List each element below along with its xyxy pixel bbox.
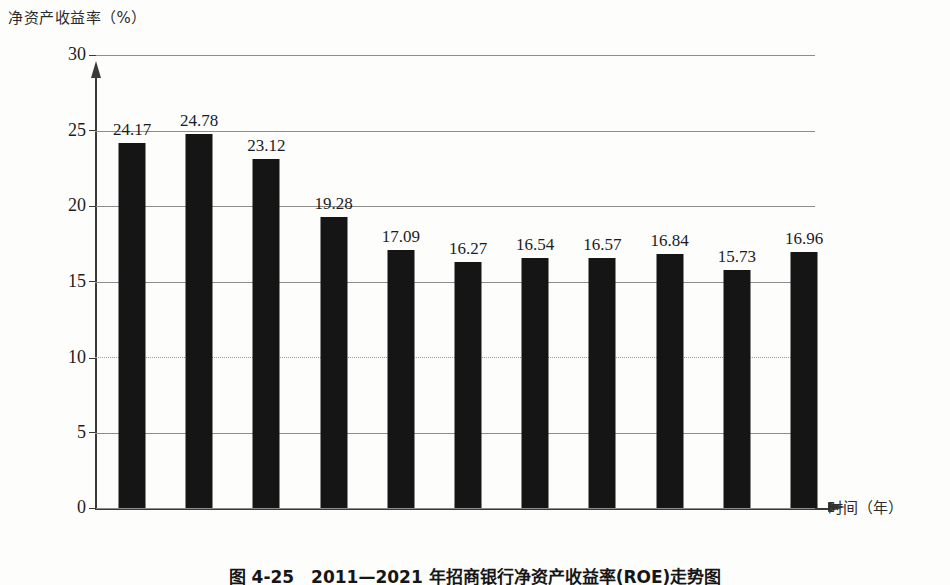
bar[interactable] bbox=[320, 217, 347, 508]
bar[interactable] bbox=[589, 258, 616, 508]
bar-value-label: 17.09 bbox=[382, 227, 420, 246]
y-tick-label: 20 bbox=[68, 195, 86, 215]
bar-value-label: 19.28 bbox=[314, 194, 352, 213]
bar-value-label: 16.96 bbox=[785, 229, 823, 248]
bar-value-label: 16.57 bbox=[583, 235, 621, 254]
bar[interactable] bbox=[186, 134, 213, 508]
bar-value-label: 15.73 bbox=[718, 247, 756, 266]
bar-series: 24.17201124.78201223.12201319.28201417.0… bbox=[95, 55, 815, 508]
figure-caption: 图 4-25 2011—2021 年招商银行净资产收益率(ROE)走势图 bbox=[0, 563, 950, 585]
plot-area: 051015202530 24.17201124.78201223.122013… bbox=[95, 55, 815, 508]
gridline-0: 0 bbox=[95, 508, 815, 509]
bar[interactable] bbox=[387, 250, 414, 508]
bar[interactable] bbox=[253, 159, 280, 508]
bar[interactable] bbox=[791, 252, 818, 508]
bar[interactable] bbox=[455, 262, 482, 508]
x-axis-title: 时间（年） bbox=[828, 496, 903, 517]
y-axis-title: 净资产收益率（%） bbox=[8, 6, 147, 27]
y-tick-label: 5 bbox=[77, 422, 86, 442]
y-tick-label: 25 bbox=[68, 120, 86, 140]
y-tick-label: 30 bbox=[68, 44, 86, 64]
bar-value-label: 24.78 bbox=[180, 111, 218, 130]
bar-value-label: 24.17 bbox=[113, 120, 151, 139]
y-tick-label: 10 bbox=[68, 347, 86, 367]
bar[interactable] bbox=[656, 254, 683, 508]
bar-value-label: 16.54 bbox=[516, 235, 554, 254]
bar[interactable] bbox=[723, 270, 750, 508]
y-tick-label: 15 bbox=[68, 271, 86, 291]
bar[interactable] bbox=[522, 258, 549, 508]
bar[interactable] bbox=[119, 143, 146, 508]
y-tick-label: 0 bbox=[77, 497, 86, 517]
bar-value-label: 23.12 bbox=[247, 136, 285, 155]
bar-value-label: 16.27 bbox=[449, 239, 487, 258]
bar-value-label: 16.84 bbox=[650, 231, 688, 250]
chart-page: 净资产收益率（%） 051015202530 24.17201124.78201… bbox=[0, 0, 950, 585]
